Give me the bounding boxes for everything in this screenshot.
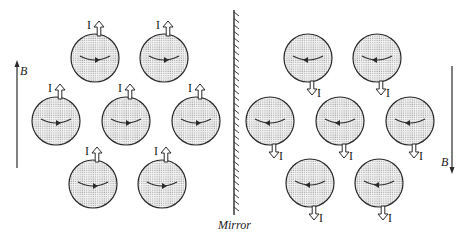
- particle: I: [71, 18, 119, 82]
- current-arrow-icon: [269, 144, 279, 158]
- particle: I: [353, 34, 401, 100]
- current-arrow-icon: [409, 144, 419, 158]
- current-label: I: [85, 144, 89, 158]
- particle: I: [102, 81, 150, 145]
- particle: I: [284, 34, 332, 100]
- current-label: I: [279, 149, 283, 163]
- current-label: I: [188, 81, 192, 95]
- current-arrow-icon: [376, 81, 386, 95]
- current-label: I: [156, 18, 160, 32]
- particle: I: [172, 81, 220, 145]
- left-particles: IIIIIII: [32, 18, 220, 208]
- particle: I: [138, 144, 186, 208]
- current-label: I: [319, 211, 323, 225]
- left-field-label: B: [20, 64, 28, 78]
- mirror-symmetry-diagram: B B Mirror IIIIIII IIIIIII: [0, 0, 468, 236]
- particle: I: [69, 144, 117, 208]
- left-field-arrow: [15, 60, 20, 168]
- current-label: I: [87, 18, 91, 32]
- current-arrow-icon: [339, 144, 349, 158]
- current-label: I: [48, 81, 52, 95]
- current-label: I: [317, 86, 321, 100]
- right-particles: IIIIIII: [246, 34, 434, 225]
- mirror: [234, 10, 239, 215]
- current-label: I: [349, 149, 353, 163]
- current-label: I: [118, 81, 122, 95]
- current-arrow-icon: [309, 206, 319, 220]
- particle: I: [386, 97, 434, 163]
- particle: I: [140, 18, 188, 82]
- particle: I: [286, 159, 334, 225]
- right-field-label: B: [441, 155, 449, 169]
- current-label: I: [388, 211, 392, 225]
- particle: I: [246, 97, 294, 163]
- mirror-label: Mirror: [217, 218, 251, 232]
- current-arrow-icon: [378, 206, 388, 220]
- particle: I: [355, 159, 403, 225]
- particle: I: [316, 97, 364, 163]
- current-label: I: [419, 149, 423, 163]
- current-label: I: [386, 86, 390, 100]
- current-arrow-icon: [307, 81, 317, 95]
- current-label: I: [154, 144, 158, 158]
- particle: I: [32, 81, 80, 145]
- right-field-arrow: [450, 66, 455, 174]
